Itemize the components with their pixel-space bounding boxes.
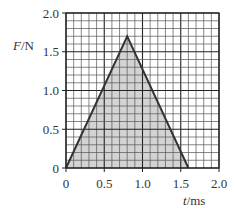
y-tick-label: 1.0 — [43, 83, 59, 98]
x-tick-label: 1.5 — [173, 176, 189, 191]
y-tick-label: 0 — [53, 161, 60, 176]
x-tick-label: 2.0 — [211, 176, 227, 191]
y-tick-label: 0.5 — [43, 122, 59, 137]
y-axis-label: F/N — [12, 38, 35, 53]
grid — [66, 13, 219, 168]
x-axis-label: t/ms — [183, 193, 205, 208]
y-tick-label: 1.5 — [43, 44, 59, 59]
x-tick-label: 0 — [63, 176, 70, 191]
x-tick-label: 1.0 — [134, 176, 150, 191]
x-tick-label: 0.5 — [96, 176, 112, 191]
force-time-chart: 00.51.01.52.000.51.01.52.0 F/N t/ms — [0, 0, 236, 220]
y-tick-label: 2.0 — [43, 6, 59, 21]
